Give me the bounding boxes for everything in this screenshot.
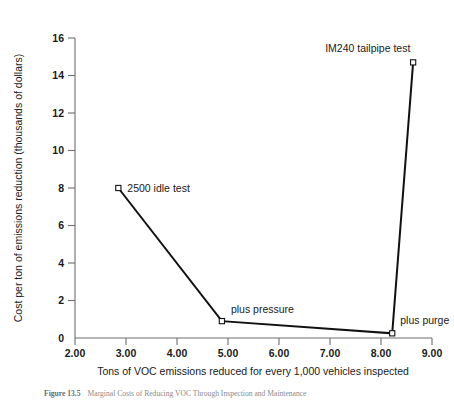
y-axis-ticks: 0246810121416 <box>52 32 75 344</box>
y-tick-label: 16 <box>52 32 64 44</box>
y-tick-label: 6 <box>58 219 64 231</box>
y-tick-label: 14 <box>52 69 64 81</box>
data-point-label: plus pressure <box>231 303 294 315</box>
data-point-marker <box>116 185 121 190</box>
x-tick-label: 7.00 <box>320 347 341 359</box>
data-point-marker <box>390 331 395 336</box>
data-point-marker <box>411 60 416 65</box>
figure-caption-text: Marginal Costs of Reducing VOC Through I… <box>88 389 307 398</box>
x-tick-label: 8.00 <box>371 347 392 359</box>
data-point-label: plus purge <box>400 314 449 326</box>
x-tick-label: 2.00 <box>65 347 86 359</box>
data-line-series-0 <box>118 62 413 333</box>
data-point-labels: 2500 idle testplus pressureplus purgeIM2… <box>127 42 449 326</box>
y-axis-title: Cost per ton of emissions reduction (tho… <box>12 54 24 322</box>
figure-container: 0246810121416 2.003.004.005.006.007.008.… <box>0 0 454 400</box>
figure-caption-number: Figure 13.5 <box>44 389 81 398</box>
x-tick-label: 5.00 <box>218 347 239 359</box>
chart-canvas: 0246810121416 2.003.004.005.006.007.008.… <box>0 0 454 400</box>
y-tick-label: 12 <box>52 107 64 119</box>
y-tick-label: 4 <box>58 257 64 269</box>
x-axis-ticks: 2.003.004.005.006.007.008.009.00 <box>65 338 443 359</box>
data-point-marker <box>219 319 224 324</box>
y-tick-label: 2 <box>58 294 64 306</box>
x-tick-label: 3.00 <box>116 347 137 359</box>
x-tick-label: 6.00 <box>269 347 290 359</box>
x-tick-label: 4.00 <box>167 347 188 359</box>
figure-caption: Figure 13.5Marginal Costs of Reducing VO… <box>44 388 444 400</box>
data-markers <box>116 60 416 336</box>
x-axis-title: Tons of VOC emissions reduced for every … <box>97 365 409 377</box>
x-tick-label: 9.00 <box>422 347 443 359</box>
data-point-label: 2500 idle test <box>127 182 190 194</box>
y-tick-label: 0 <box>58 332 64 344</box>
y-tick-label: 8 <box>58 182 64 194</box>
data-point-label: IM240 tailpipe test <box>325 42 410 54</box>
y-tick-label: 10 <box>52 144 64 156</box>
